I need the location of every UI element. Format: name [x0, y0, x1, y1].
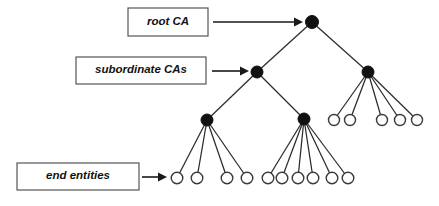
label-group-subordinate-cas: subordinate CAs [76, 57, 249, 84]
end-entity-node-ee-l2[interactable] [191, 172, 203, 184]
tree-edge [207, 120, 247, 178]
ca-node-root[interactable] [306, 16, 319, 29]
end-entity-node-ee-r2[interactable] [345, 115, 356, 126]
edges-layer [177, 22, 417, 178]
end-entity-node-ee-m4[interactable] [307, 172, 319, 184]
arrow-head-icon-root-ca [294, 18, 303, 27]
tree-edge [334, 72, 368, 120]
label-text-subordinate-cas: subordinate CAs [95, 63, 187, 75]
end-entity-node-ee-m5[interactable] [326, 172, 338, 184]
end-entity-node-ee-l1[interactable] [171, 172, 183, 184]
arrow-head-icon-subordinate-cas [240, 67, 249, 76]
end-entity-node-ee-r4[interactable] [395, 115, 406, 126]
label-group-end-entities: end entities [17, 163, 167, 190]
tree-edge [312, 22, 368, 72]
tree-edge [257, 72, 304, 119]
ca-node-sub-left[interactable] [251, 66, 263, 78]
label-text-end-entities: end entities [46, 169, 110, 181]
end-entity-node-ee-r1[interactable] [329, 115, 340, 126]
end-entity-node-ee-m3[interactable] [292, 172, 304, 184]
ca-node-ca-mid[interactable] [298, 113, 310, 125]
tree-edge [207, 72, 257, 120]
end-entity-node-ee-m1[interactable] [262, 172, 274, 184]
end-entity-node-ee-r5[interactable] [412, 115, 423, 126]
tree-edge [304, 119, 348, 178]
end-entity-node-ee-l3[interactable] [221, 172, 233, 184]
tree-edge [350, 72, 368, 120]
arrow-head-icon-end-entities [158, 173, 167, 182]
ca-node-sub-right[interactable] [362, 66, 374, 78]
tree-edge [257, 22, 312, 72]
label-text-root-ca: root CA [147, 15, 189, 27]
end-entity-node-ee-m2[interactable] [276, 172, 288, 184]
end-entity-node-ee-l4[interactable] [241, 172, 253, 184]
end-entity-node-ee-m6[interactable] [342, 172, 354, 184]
end-entity-node-ee-r3[interactable] [377, 115, 388, 126]
tree-edge [368, 72, 400, 120]
diagram-canvas: root CAsubordinate CAsend entities [0, 0, 439, 206]
labels-layer: root CAsubordinate CAsend entities [17, 8, 303, 190]
tree-edge [207, 120, 227, 178]
label-group-root-ca: root CA [128, 8, 303, 36]
pki-hierarchy-diagram: root CAsubordinate CAsend entities [0, 0, 439, 206]
ca-node-ca-left[interactable] [201, 114, 213, 126]
